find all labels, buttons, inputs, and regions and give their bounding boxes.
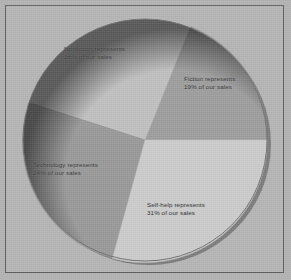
pie-chart: Nonfiction represents 26% of our sales F… [0, 0, 291, 280]
selfhelp-label-line2: 31% of our sales [147, 209, 205, 217]
nonfiction-label-line1: Nonfiction represents [64, 45, 125, 52]
chart-screenshot: Nonfiction represents 26% of our sales F… [0, 0, 291, 280]
fiction-label-line2: 19% of our sales [184, 83, 235, 91]
slice-label-nonfiction: Nonfiction represents 26% of our sales [64, 45, 125, 62]
slice-label-selfhelp: Self-help represents 31% of our sales [147, 201, 205, 218]
nonfiction-label-line2: 26% of our sales [64, 53, 125, 61]
slice-label-fiction: Fiction represents 19% of our sales [184, 75, 235, 92]
slice-label-technology: Technology represents 24% of our sales [33, 161, 98, 178]
pie-svg [18, 14, 272, 266]
technology-label-line2: 24% of our sales [33, 169, 98, 177]
pie-rim-shading [23, 19, 267, 261]
fiction-label-line1: Fiction represents [184, 75, 235, 82]
selfhelp-label-line1: Self-help represents [147, 201, 205, 208]
technology-label-line1: Technology represents [33, 161, 98, 168]
